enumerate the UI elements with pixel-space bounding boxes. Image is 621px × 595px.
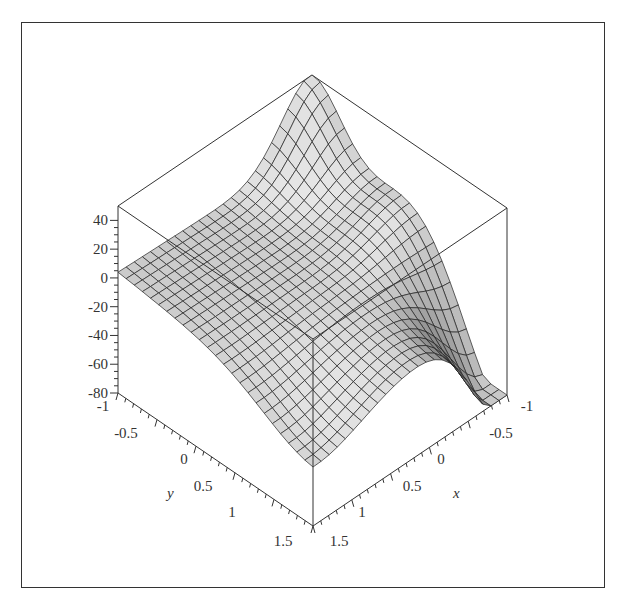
y-tick bbox=[172, 430, 173, 434]
y-tick-label: -1 bbox=[97, 398, 110, 414]
x-tick bbox=[484, 411, 485, 415]
x-tick bbox=[429, 447, 431, 454]
x-tick bbox=[445, 437, 446, 441]
y-tick bbox=[116, 393, 118, 400]
y-tick bbox=[296, 515, 297, 519]
x-tick bbox=[460, 426, 461, 430]
y-tick bbox=[133, 404, 134, 408]
y-tick bbox=[187, 441, 188, 445]
y-tick bbox=[257, 489, 258, 493]
y-tick bbox=[140, 409, 141, 413]
x-tick bbox=[499, 400, 500, 404]
y-tick bbox=[155, 420, 157, 427]
y-tick bbox=[226, 467, 227, 471]
x-tick-label: 1 bbox=[358, 504, 366, 520]
x-tick bbox=[321, 521, 322, 525]
y-tick-label: -0.5 bbox=[114, 425, 138, 441]
y-tick bbox=[203, 452, 204, 456]
x-tick-label: 0 bbox=[437, 451, 445, 467]
x-tick bbox=[360, 495, 361, 499]
y-tick-label: 0 bbox=[180, 451, 188, 467]
y-tick bbox=[148, 414, 149, 418]
z-tick-label: -40 bbox=[88, 327, 108, 343]
y-tick bbox=[281, 505, 282, 509]
x-tick bbox=[336, 510, 337, 514]
y-tick bbox=[211, 457, 212, 461]
x-tick bbox=[476, 416, 477, 420]
x-tick bbox=[491, 405, 492, 409]
x-tick-label: 0.5 bbox=[403, 478, 422, 494]
x-tick-label: 1.5 bbox=[330, 533, 349, 549]
z-tick-label: 40 bbox=[93, 212, 108, 228]
y-tick-label: 1 bbox=[228, 504, 236, 520]
y-tick bbox=[233, 473, 235, 480]
x-tick bbox=[414, 458, 415, 462]
x-tick bbox=[383, 479, 384, 483]
z-tick-label: 0 bbox=[101, 270, 109, 286]
x-axis-label: x bbox=[452, 485, 460, 501]
z-tick-label: -60 bbox=[88, 356, 108, 372]
y-tick bbox=[164, 425, 165, 429]
y-tick-label: 1.5 bbox=[274, 533, 293, 549]
x-tick bbox=[422, 453, 423, 457]
y-tick bbox=[304, 521, 305, 525]
z-tick-label: 20 bbox=[93, 241, 108, 257]
x-tick bbox=[406, 463, 407, 467]
z-axis: 40200-20-40-60-80 bbox=[88, 212, 118, 401]
y-tick bbox=[289, 510, 290, 514]
z-tick-label: -20 bbox=[88, 299, 108, 315]
x-tick bbox=[329, 516, 330, 520]
surface-plot-3d: 40200-20-40-60-80 -1-0.500.511.5 -1-0.50… bbox=[0, 0, 621, 595]
x-tick bbox=[437, 442, 438, 446]
y-tick bbox=[250, 483, 251, 487]
x-tick-label: -1 bbox=[521, 398, 534, 414]
y-tick-label: 0.5 bbox=[194, 478, 213, 494]
x-tick-label: -0.5 bbox=[489, 425, 513, 441]
y-axis-label: y bbox=[165, 485, 174, 501]
x-tick bbox=[375, 484, 376, 488]
y-tick bbox=[272, 499, 274, 506]
y-tick bbox=[265, 494, 266, 498]
x-tick bbox=[352, 500, 354, 507]
y-tick bbox=[125, 398, 126, 402]
x-tick bbox=[391, 474, 393, 481]
y-tick bbox=[242, 478, 243, 482]
y-tick bbox=[179, 436, 180, 440]
x-tick bbox=[468, 421, 470, 428]
y-tick bbox=[194, 446, 196, 453]
y-tick bbox=[311, 526, 313, 533]
x-tick bbox=[453, 432, 454, 436]
x-tick bbox=[313, 526, 315, 533]
x-tick bbox=[507, 395, 509, 402]
x-tick bbox=[344, 505, 345, 509]
x-tick bbox=[367, 489, 368, 493]
y-tick bbox=[218, 462, 219, 466]
x-tick bbox=[398, 468, 399, 472]
